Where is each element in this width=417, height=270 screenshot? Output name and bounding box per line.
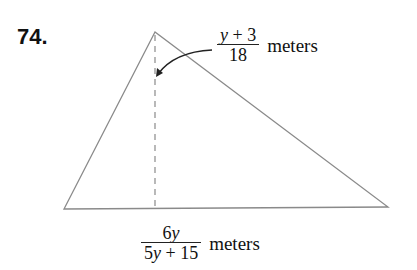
height-numerator: y + 3 <box>217 26 259 44</box>
base-numerator: 6y <box>160 224 183 242</box>
variable-y: y <box>220 25 228 45</box>
height-denominator: 18 <box>226 45 250 65</box>
base-fraction: 6y 5y + 15 <box>141 224 201 263</box>
height-label: y + 3 18 meters <box>217 26 318 65</box>
denominator-coefficient: 5 <box>144 243 153 263</box>
variable-y: y <box>172 223 180 243</box>
numerator-constant: + 3 <box>228 25 256 45</box>
base-denominator: 5y + 15 <box>141 243 201 263</box>
height-unit: meters <box>267 35 318 57</box>
height-fraction: y + 3 18 <box>217 26 259 65</box>
pointer-arrow-icon <box>158 50 212 74</box>
base-unit: meters <box>209 233 260 255</box>
problem-figure-page: 74. y + 3 18 meters 6y 5y + 15 meters <box>0 0 417 270</box>
denominator-constant: + 15 <box>161 243 198 263</box>
variable-y: y <box>153 243 161 263</box>
numerator-coefficient: 6 <box>163 223 172 243</box>
base-label: 6y 5y + 15 meters <box>141 224 260 263</box>
